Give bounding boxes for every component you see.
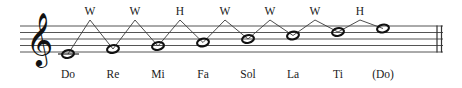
interval-label-5: W [255, 5, 285, 17]
solfege-label-la: La [271, 68, 315, 81]
treble-clef-icon: 𝄞 [26, 12, 53, 68]
note-heads [58, 23, 390, 59]
solfege-label-sol: Sol [226, 68, 270, 81]
interval-label-1: W [75, 5, 105, 17]
solfege-label-re: Re [91, 68, 135, 81]
interval-label-3: H [165, 5, 195, 17]
interval-label-2: W [120, 5, 150, 17]
solfege-label-do: Do [46, 68, 90, 81]
solfege-label-ti: Ti [316, 68, 360, 81]
svg-text:𝄞: 𝄞 [26, 12, 53, 68]
solfege-label-fa: Fa [181, 68, 225, 81]
major-scale-diagram: 𝄞 W W H W W W H Do Re Mi Fa Sol La Ti (D… [0, 0, 462, 88]
interval-label-4: W [210, 5, 240, 17]
solfege-label-mi: Mi [136, 68, 180, 81]
solfege-label-do-octave: (Do) [361, 68, 405, 81]
interval-zigzag-line [68, 20, 383, 54]
interval-label-6: W [300, 5, 330, 17]
interval-label-7: H [345, 5, 375, 17]
